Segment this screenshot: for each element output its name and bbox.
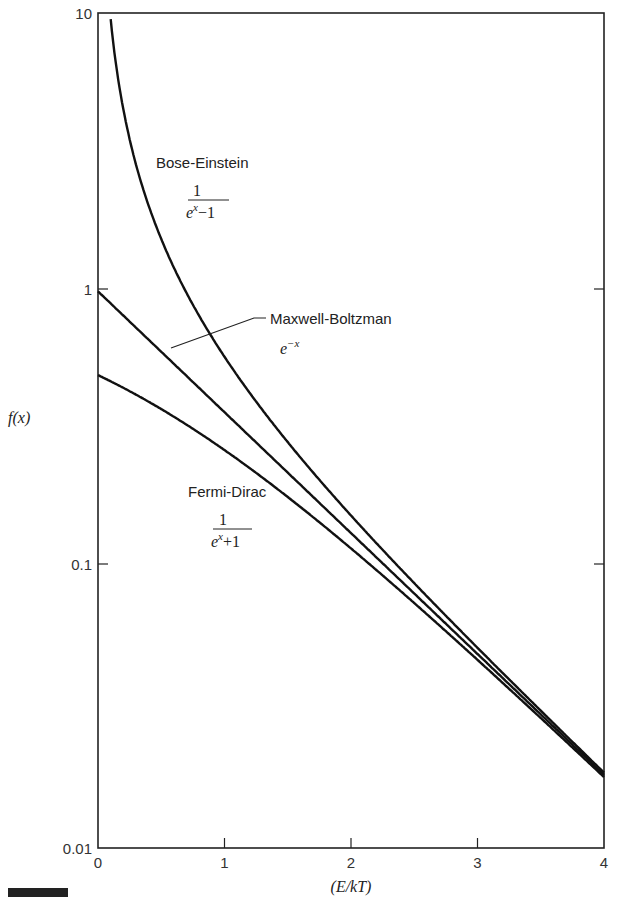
curves xyxy=(98,19,604,777)
y-tick-label: 10 xyxy=(75,5,92,22)
x-tick-label: 0 xyxy=(94,854,102,871)
x-tick-label: 4 xyxy=(600,854,608,871)
bose-einstein-curve xyxy=(111,19,604,773)
bose-einstein-formula-numerator: 1 xyxy=(193,182,201,199)
x-tick-label: 2 xyxy=(347,854,355,871)
x-axis xyxy=(225,838,478,848)
x-axis-label: (E/kT) xyxy=(331,878,372,896)
y-axis xyxy=(98,289,108,564)
figure-caption-fragment xyxy=(8,888,68,897)
formula-base: e xyxy=(280,340,287,357)
maxwell-boltzman-label: Maxwell-Boltzman xyxy=(270,310,392,327)
fermi-dirac-curve xyxy=(98,375,604,777)
formula-base: e xyxy=(186,204,193,221)
y-tick-label: 0.01 xyxy=(63,840,92,857)
statistics-distribution-chart: 10 1 0.1 0.01 0 1 2 3 4 (E/kT) f(x) Bose… xyxy=(0,0,617,897)
y-tick-label: 1 xyxy=(84,281,92,298)
formula-exponent: −x xyxy=(287,337,299,349)
formula-rest: +1 xyxy=(223,533,240,550)
plot-frame xyxy=(98,13,604,848)
fermi-dirac-formula-numerator: 1 xyxy=(219,511,227,528)
formula-base: e xyxy=(211,533,218,550)
x-tick-label: 3 xyxy=(473,854,481,871)
bose-einstein-label: Bose-Einstein xyxy=(156,154,249,171)
y-axis-right-ticks xyxy=(594,289,604,564)
maxwell-boltzman-leader-line xyxy=(171,318,266,348)
fermi-dirac-formula-denominator: ex+1 xyxy=(211,530,240,550)
formula-rest: −1 xyxy=(198,204,215,221)
maxwell-boltzman-curve xyxy=(98,291,604,775)
y-axis-label: f(x) xyxy=(8,409,30,427)
bose-einstein-formula-denominator: ex−1 xyxy=(186,201,215,221)
x-tick-label: 1 xyxy=(220,854,228,871)
fermi-dirac-label: Fermi-Dirac xyxy=(188,483,267,500)
y-tick-label: 0.1 xyxy=(71,556,92,573)
maxwell-boltzman-formula: e−x xyxy=(280,337,300,357)
